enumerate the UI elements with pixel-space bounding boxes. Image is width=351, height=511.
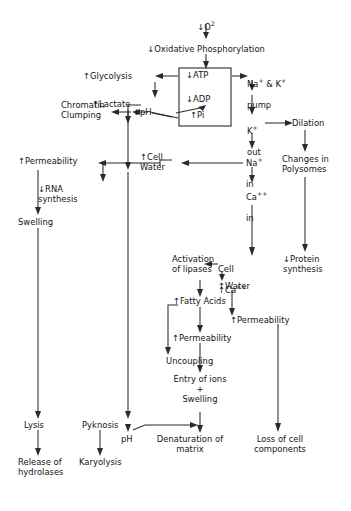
node-loss-of-cell-components: Loss of cell components [243,434,317,454]
node-release-of-hydrolases: Release of hydrolases [18,457,84,477]
node-na-k-pump-line2: pump [247,100,271,110]
node-oxidative-phosphorylation: ↓Oxidative Phosphorylation [131,44,281,54]
node-na-k-pump-na: Na [247,79,258,89]
node-oxygen: ↓O2 [190,12,222,32]
node-lysis: Lysis [24,420,64,430]
node-cell-calcium-line1: Cell [218,264,234,274]
node-karyolysis: Karyolysis [79,457,137,467]
node-ca-in: Ca++ in [246,182,274,223]
node-permeability-mid: ↑Permeability [172,333,254,343]
node-na-k-pump-amp: & K [264,79,281,89]
node-denaturation-of-matrix: Denaturation of matrix [147,434,233,454]
node-fatty-acids: ↑Fatty Acids [173,296,245,306]
node-protein-synthesis: ↓Protein synthesis [283,254,345,274]
node-na-in-charge: + [257,156,262,163]
node-chromatin-clumping: Chromatin Clumping [61,100,113,120]
node-ca-in-ca: Ca [246,192,257,202]
node-na-k-pump-k-charge: + [281,77,286,84]
node-atp: ↓ATP [186,70,220,80]
node-ca-in-charge: ++ [257,190,267,197]
node-swelling-left: Swelling [18,217,72,227]
node-ca-in-line2: in [246,213,254,223]
node-rna-synthesis: ↓RNA synthesis [38,184,94,204]
node-water: ↑Water [218,281,262,291]
node-glycolysis: ↑Glycolysis [83,71,155,81]
node-na-k-pump: Na+ & K+ pump [247,69,305,110]
node-permeability-left: ↑Permeability [18,156,100,166]
node-k-out-charge: + [253,124,258,131]
node-na-in-na: Na [246,158,257,168]
node-ph-low: ↓pH [133,107,159,117]
node-oxygen-label: ↓O [197,22,211,32]
node-ph-bottom: pH [121,434,141,444]
node-uncoupling: Uncoupling [166,356,232,366]
node-changes-in-polysomes: Changes in Polysomes [282,154,348,174]
node-cell-water: ↑Cell Water [140,152,184,172]
node-adp: ↓ADP [186,94,220,104]
node-pyknosis: Pyknosis [82,420,134,430]
node-permeability-right: ↑Permeability [230,315,312,325]
node-oxygen-subscript: 2 [211,20,215,27]
node-entry-of-ions-swelling: Entry of ions + Swelling [163,374,237,405]
node-dilation: Dilation [292,118,344,128]
node-pi: ↑Pi [190,110,218,120]
cell-injury-flowchart: ↓O2 ↓Oxidative Phosphorylation ↑Glycolys… [0,0,351,511]
